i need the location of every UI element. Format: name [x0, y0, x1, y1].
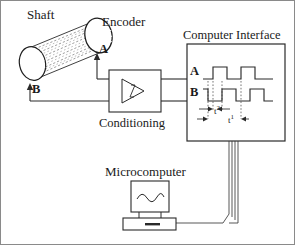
label-computer-interface: Computer Interface	[183, 29, 281, 42]
data-bus-lines	[176, 141, 238, 223]
label-encoder-channel-a: A	[99, 43, 108, 56]
label-waveform-channel-b: B	[190, 86, 198, 99]
label-encoder-channel-b: B	[32, 83, 40, 96]
drive-slot	[145, 223, 160, 225]
microcomputer-assembly	[123, 181, 176, 230]
channel-b-wire	[30, 89, 109, 101]
label-conditioning: Conditioning	[99, 117, 165, 130]
label-timing-t2-superscript: 2	[217, 104, 221, 112]
diagram-canvas: Shaft Encoder Computer Interface Conditi…	[0, 0, 295, 245]
conditioning-to-interface-wires	[161, 79, 187, 101]
label-timing-t1-superscript: 1	[231, 113, 235, 121]
label-waveform-channel-a: A	[190, 65, 199, 78]
label-timing-t1: t1	[228, 114, 234, 125]
conditioning-block	[109, 70, 161, 112]
label-encoder: Encoder	[102, 15, 145, 28]
label-microcomputer: Microcomputer	[105, 165, 186, 178]
label-timing-t2: t2	[214, 105, 220, 116]
label-shaft: Shaft	[27, 8, 54, 21]
